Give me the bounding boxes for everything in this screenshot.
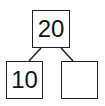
connector-right <box>61 48 73 61</box>
part-box-right[interactable] <box>61 61 98 99</box>
connector-left <box>29 48 41 61</box>
whole-box: 20 <box>32 10 70 48</box>
part-box-left: 10 <box>6 61 43 99</box>
